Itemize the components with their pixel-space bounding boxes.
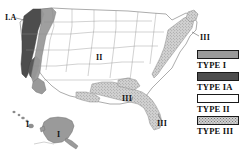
legend-label-type-ia: TYPE IA [197,81,240,93]
map-legend: TYPE I TYPE IA TYPE II TYPE III [197,50,240,138]
map-label-iii-southeast: III [122,94,132,103]
legend-item-type-ii: TYPE II [197,94,240,115]
map-label-ia: I.A [5,13,17,22]
legend-label-type-iii: TYPE III [197,125,240,137]
legend-label-type-ii: TYPE II [197,103,240,115]
map-label-iii-florida: III [157,119,167,128]
map-label-ii: II [96,53,103,62]
legend-swatch-type-ia [197,72,239,81]
legend-label-type-i: TYPE I [197,59,240,71]
legend-item-type-iii: TYPE III [197,116,240,137]
legend-swatch-type-iii [197,116,239,125]
legend-item-type-i: TYPE I [197,50,240,71]
us-zone-map-figure: I.A II III III III I I TYPE I TYPE IA TY… [0,0,242,162]
alaska-inset [34,117,78,149]
hawaii-inset [13,111,34,128]
legend-swatch-type-ii [197,94,239,103]
legend-item-type-ia: TYPE IA [197,72,240,93]
map-label-iii-northeast: III [200,33,210,42]
map-label-i-alaska: I [57,130,60,139]
legend-swatch-type-i [197,50,239,59]
map-label-i-hawaii: I [26,120,29,129]
